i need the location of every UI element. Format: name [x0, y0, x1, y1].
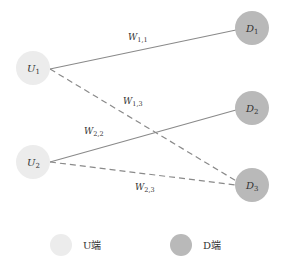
- node-d2: D2: [235, 91, 269, 125]
- node-d3: D3: [235, 168, 269, 202]
- edge-label-w23: W2,3: [135, 182, 155, 194]
- node-u1: U1: [16, 51, 50, 85]
- bipartite-diagram: W1,1 W1,3 W2,2 W2,3 U1 U2 D1 D2 D3 U端 D端: [0, 0, 284, 270]
- edge-u2-d2: [50, 110, 236, 162]
- legend-d-swatch: [170, 234, 192, 256]
- edge-u1-d3: [50, 69, 238, 182]
- edge-label-w22: W2,2: [84, 126, 104, 138]
- edge-label-w13: W1,3: [123, 96, 143, 108]
- legend-u-label: U端: [83, 239, 101, 251]
- node-u2: U2: [16, 145, 50, 179]
- edge-label-w11: W1,1: [128, 32, 148, 44]
- legend-d-label: D端: [203, 239, 221, 251]
- node-d1: D1: [235, 11, 269, 45]
- legend: U端 D端: [50, 234, 221, 256]
- legend-u-swatch: [50, 234, 72, 256]
